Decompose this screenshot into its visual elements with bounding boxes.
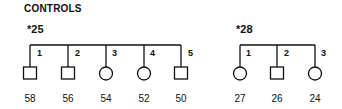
member-number: 3	[321, 48, 326, 58]
female-symbol-25-3	[100, 67, 113, 80]
member-age: 26	[265, 93, 289, 104]
member-age: 50	[169, 93, 193, 104]
member-age: 27	[228, 93, 252, 104]
male-symbol-25-2	[62, 67, 75, 79]
female-symbol-28-3	[309, 67, 322, 80]
member-age: 56	[56, 93, 80, 104]
member-number: 5	[188, 48, 193, 58]
member-number: 4	[150, 48, 155, 58]
male-symbol-25-1	[24, 67, 37, 79]
member-number: 3	[112, 48, 117, 58]
female-symbol-28-1	[234, 67, 247, 80]
member-number: 2	[284, 48, 289, 58]
female-symbol-25-4	[138, 67, 151, 80]
member-number: 2	[75, 48, 80, 58]
member-age: 52	[132, 93, 156, 104]
member-age: 58	[18, 93, 42, 104]
member-number: 1	[37, 48, 42, 58]
member-number: 1	[246, 48, 251, 58]
male-symbol-28-2	[271, 67, 284, 79]
male-symbol-25-5	[175, 67, 188, 79]
member-age: 24	[303, 93, 327, 104]
member-age: 54	[94, 93, 118, 104]
